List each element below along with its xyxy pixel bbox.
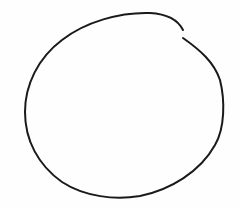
circle-sketch [0, 0, 240, 208]
sketch-canvas [0, 0, 240, 208]
circle-stroke [25, 13, 223, 198]
